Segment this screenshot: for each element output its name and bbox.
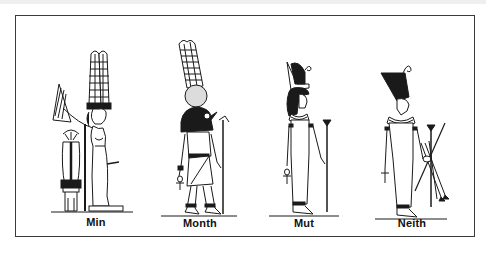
- double-crown-icon: [287, 62, 311, 90]
- figure-month: Month: [159, 36, 239, 221]
- ankh-icon: [176, 176, 184, 190]
- figure-label-month: Month: [172, 217, 228, 229]
- plume-crown-icon: [179, 40, 203, 88]
- ankh-icon: [283, 169, 291, 184]
- mut-deity-drawing: [269, 54, 349, 224]
- sun-disk-icon: [185, 85, 207, 107]
- figure-mut: Mut: [269, 54, 349, 224]
- figure-neith: Neith: [375, 59, 455, 224]
- plume-crown-icon: [87, 51, 111, 109]
- top-rule: [0, 0, 486, 4]
- min-deity-drawing: [49, 46, 139, 221]
- month-deity-drawing: [159, 36, 239, 221]
- bow-and-arrows-icon: [415, 123, 449, 201]
- red-crown-icon: [381, 66, 411, 101]
- figure-min: Min: [49, 46, 139, 221]
- figure-label-mut: Mut: [284, 217, 324, 229]
- figure-label-min: Min: [71, 216, 121, 228]
- illustration-plate: Min: [15, 15, 475, 237]
- ankh-icon: [381, 169, 389, 183]
- neith-deity-drawing: [375, 59, 455, 224]
- figure-label-neith: Neith: [387, 217, 437, 229]
